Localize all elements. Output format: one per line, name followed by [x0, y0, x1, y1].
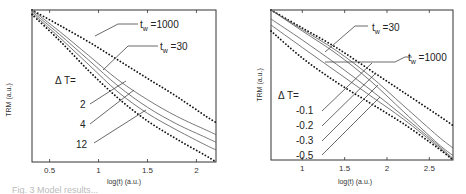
left-series-line — [32, 10, 216, 135]
left-delta-t-label: Δ T= — [55, 75, 76, 86]
right-leader-dT-0.3 — [322, 85, 378, 141]
right-dT-0.2: -0.2 — [296, 120, 314, 131]
left-dT-2: 2 — [80, 99, 86, 110]
x-tick-label: 2 — [385, 164, 390, 173]
left-leader-tw30 — [103, 46, 158, 70]
right-leader-tw1000 — [325, 57, 412, 62]
left-leader-tw1000 — [95, 24, 138, 36]
left-x-ticks: 0.511.52 — [44, 10, 199, 175]
left-series — [32, 10, 216, 162]
x-tick-label: 2.5 — [424, 164, 436, 173]
left-series-line — [32, 10, 216, 122]
right-label-tw30: tw =30 — [372, 22, 400, 35]
left-y-axis-label: TRM (a.u.) — [5, 83, 13, 116]
left-chart: 0.511.52 TRM (a.u.) log(t) (a.u.) tw =10… — [5, 10, 216, 186]
left-label-tw1000: tw =1000 — [140, 19, 179, 32]
left-plot-frame — [32, 10, 216, 162]
right-dT-0.5: -0.5 — [296, 150, 314, 161]
left-dT-12: 12 — [76, 139, 88, 150]
x-tick-label: 1 — [300, 164, 305, 173]
right-x-axis-label: log(t) (a.u.) — [338, 178, 372, 186]
x-tick-label: 0.5 — [44, 166, 56, 175]
right-series-line — [271, 10, 453, 156]
x-tick-label: 1.5 — [142, 166, 154, 175]
x-tick-label: 1 — [96, 166, 101, 175]
left-dT-4: 4 — [80, 119, 86, 130]
left-series-line — [32, 15, 216, 162]
left-label-tw30: tw =30 — [160, 41, 188, 54]
right-leader-dT-0.1 — [322, 63, 372, 111]
right-delta-t-label: Δ T= — [278, 90, 299, 101]
right-chart: 11.522.5 TRM (a.u.) log(t) (a.u.) tw =30… — [256, 10, 453, 186]
x-tick-label: 2 — [194, 166, 199, 175]
right-dT-0.3: -0.3 — [296, 135, 314, 146]
x-tick-label: 1.5 — [339, 164, 351, 173]
right-dT-0.1: -0.1 — [296, 105, 314, 116]
left-leader-dT-4 — [90, 90, 134, 124]
right-y-axis-label: TRM (a.u.) — [256, 68, 264, 101]
right-x-ticks: 11.522.5 — [300, 10, 435, 173]
right-leader-dT-0.5 — [322, 97, 380, 155]
figure: 0.511.52 TRM (a.u.) log(t) (a.u.) tw =10… — [0, 0, 466, 194]
left-x-axis-label: log(t) (a.u.) — [107, 178, 141, 186]
figure-caption: Fig. 3 Model results... — [12, 185, 98, 194]
right-leader-tw30 — [325, 26, 368, 52]
right-label-tw1000: tw =1000 — [408, 52, 447, 65]
